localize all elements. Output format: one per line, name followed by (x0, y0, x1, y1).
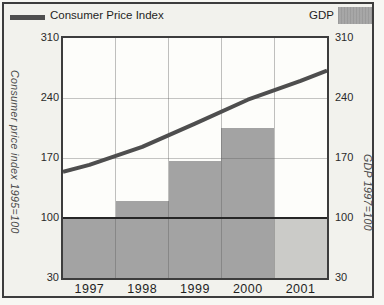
xtick-2001: 2001 (274, 282, 327, 296)
left-ytick-30: 30 (31, 271, 59, 283)
right-ytick-310: 310 (335, 31, 365, 43)
left-ytick-240: 240 (31, 91, 59, 103)
right-ytick-30: 30 (335, 271, 365, 283)
chart-figure: { "legend": { "line_label": "Consumer Pr… (0, 0, 384, 305)
cpi-line-legend-swatch (10, 15, 45, 20)
left-axis-title: Consumer price index 1995=100 (9, 70, 21, 282)
plot-inner (63, 38, 327, 278)
xtick-2000: 2000 (221, 282, 274, 296)
gdp-legend-label: GDP (280, 9, 334, 21)
plot-area (61, 36, 329, 280)
left-ytick-310: 310 (31, 31, 59, 43)
cpi-legend-label: Consumer Price Index (50, 9, 164, 21)
right-ytick-100: 100 (335, 211, 365, 223)
xtick-1998: 1998 (116, 282, 169, 296)
xtick-1997: 1997 (63, 282, 116, 296)
left-ytick-170: 170 (31, 151, 59, 163)
gdp-bar-legend-swatch (338, 7, 372, 24)
left-ytick-100: 100 (31, 211, 59, 223)
right-ytick-170: 170 (335, 151, 365, 163)
right-ytick-240: 240 (335, 91, 365, 103)
cpi-line (63, 38, 327, 278)
xtick-1999: 1999 (169, 282, 222, 296)
